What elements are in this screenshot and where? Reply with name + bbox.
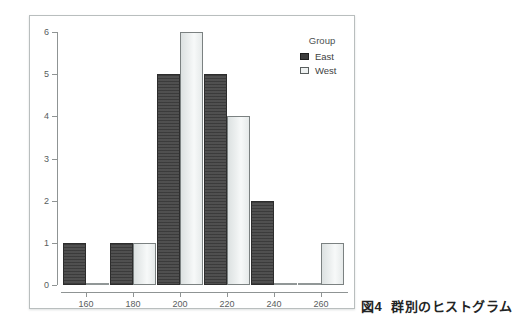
legend-title: Group — [280, 35, 364, 46]
east-bar-180 — [110, 243, 133, 285]
west-bar-180 — [133, 243, 156, 285]
west-bar-220 — [227, 116, 250, 285]
histogram-plot: Group East West 012345616018020022024026… — [30, 16, 354, 308]
x-tick-160 — [86, 292, 87, 297]
west-bar-260 — [321, 243, 344, 285]
x-axis-line — [61, 292, 348, 293]
east-bar-200 — [157, 74, 180, 285]
legend-item-west: West — [280, 65, 364, 76]
legend: Group East West — [280, 35, 364, 79]
x-tick-180 — [133, 292, 134, 297]
east-bar-160 — [63, 243, 86, 285]
x-tick-label-220: 220 — [211, 299, 243, 309]
y-tick-label-1: 1 — [30, 238, 49, 248]
x-tick-label-260: 260 — [305, 299, 337, 309]
x-tick-label-200: 200 — [164, 299, 196, 309]
y-tick-label-3: 3 — [30, 154, 49, 164]
figure-caption-text: 群別のヒストグラム — [391, 299, 513, 314]
legend-item-east: East — [280, 51, 364, 62]
figure-number: 図4 — [361, 299, 382, 314]
page: Group East West 012345616018020022024026… — [0, 0, 517, 330]
y-axis-line — [57, 32, 58, 285]
east-bar-240 — [251, 201, 274, 285]
east-swatch-icon — [300, 53, 309, 60]
y-tick-label-0: 0 — [30, 280, 49, 290]
y-tick-label-6: 6 — [30, 27, 49, 37]
y-tick-label-5: 5 — [30, 69, 49, 79]
east-bar-220 — [204, 74, 227, 285]
west-bar-200 — [180, 32, 203, 285]
east-bar-260-zero — [298, 283, 321, 285]
figure-frame: Group East West 012345616018020022024026… — [29, 15, 355, 309]
y-tick-4 — [52, 116, 57, 117]
y-tick-label-2: 2 — [30, 196, 49, 206]
y-tick-2 — [52, 201, 57, 202]
y-tick-label-4: 4 — [30, 111, 49, 121]
y-tick-6 — [52, 32, 57, 33]
x-tick-200 — [180, 292, 181, 297]
x-tick-label-240: 240 — [258, 299, 290, 309]
x-tick-label-180: 180 — [117, 299, 149, 309]
y-tick-3 — [52, 159, 57, 160]
west-bar-160-zero — [86, 283, 109, 285]
x-tick-220 — [227, 292, 228, 297]
figure-caption: 図4群別のヒストグラム — [361, 296, 513, 315]
west-bar-240-zero — [274, 283, 297, 285]
x-tick-260 — [321, 292, 322, 297]
x-tick-label-160: 160 — [70, 299, 102, 309]
legend-label-west: West — [315, 65, 336, 76]
y-tick-5 — [52, 74, 57, 75]
y-tick-1 — [52, 243, 57, 244]
y-tick-0 — [52, 285, 57, 286]
west-swatch-icon — [300, 67, 309, 74]
x-tick-240 — [274, 292, 275, 297]
legend-label-east: East — [315, 51, 334, 62]
